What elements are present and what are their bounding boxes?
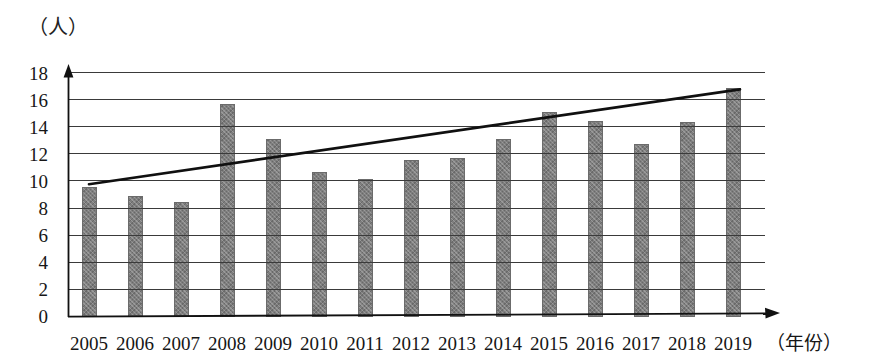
gridlines bbox=[68, 73, 765, 290]
x-tick-label-2019: 2019 bbox=[702, 334, 764, 353]
x-axis-arrow-icon bbox=[765, 308, 780, 319]
trend-line bbox=[89, 89, 740, 184]
bar-chart-figure: （人） 18 16 14 12 10 8 6 4 2 0 bbox=[0, 0, 873, 361]
plot-axes-and-trendline bbox=[0, 0, 873, 361]
x-axis-line bbox=[68, 313, 768, 316]
y-axis-arrow-icon bbox=[64, 64, 74, 78]
x-axis-unit-label: （年份） bbox=[766, 334, 842, 353]
